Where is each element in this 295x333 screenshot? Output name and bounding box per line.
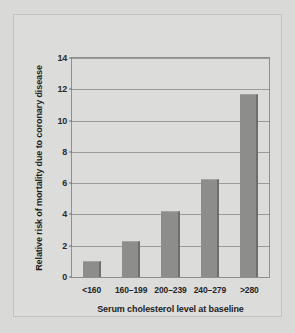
x-axis-tick-label: >280: [240, 285, 259, 295]
y-axis-tick-mark: [69, 214, 72, 215]
y-axis-tick-label: 4: [62, 209, 67, 219]
bar: [122, 241, 140, 277]
x-axis-tick-label: <160: [82, 285, 101, 295]
y-axis-tick-label: 2: [62, 241, 67, 251]
y-axis-tick-label: 8: [62, 147, 67, 157]
y-axis-tick-label: 14: [57, 53, 67, 63]
bar: [201, 179, 219, 277]
plot-area: 02468101214 <160160–199200–239240–279>28…: [71, 57, 270, 278]
bar: [240, 94, 258, 277]
y-axis-tick-mark: [69, 183, 72, 184]
y-axis-tick-mark: [69, 245, 72, 246]
bar: [161, 211, 179, 277]
gridline: [72, 58, 269, 59]
x-axis-tick-label: 160–199: [115, 285, 147, 295]
gridline: [72, 89, 269, 90]
chart-figure: Relative risk of mortality due to corona…: [0, 0, 295, 333]
y-axis-tick-mark: [69, 58, 72, 59]
y-axis-tick-label: 10: [57, 116, 67, 126]
y-axis-tick-label: 0: [62, 272, 67, 282]
y-axis-tick-label: 12: [57, 84, 67, 94]
y-axis-tick-mark: [69, 151, 72, 152]
y-axis-tick-mark: [69, 89, 72, 90]
y-axis-tick-mark: [69, 120, 72, 121]
chart-panel: Relative risk of mortality due to corona…: [13, 14, 282, 317]
bar: [83, 261, 101, 277]
y-axis-title: Relative risk of mortality due to corona…: [32, 57, 46, 278]
y-axis-tick-label: 6: [62, 178, 67, 188]
y-axis-title-label: Relative risk of mortality due to corona…: [34, 65, 44, 271]
x-axis-title: Serum cholesterol level at baseline: [71, 304, 270, 314]
x-axis-tick-label: 240–279: [194, 285, 226, 295]
y-axis-tick-mark: [69, 277, 72, 278]
x-axis-tick-label: 200–239: [154, 285, 186, 295]
